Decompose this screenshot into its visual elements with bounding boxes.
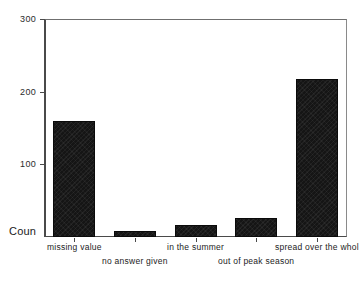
y-axis-tick-label: 100 xyxy=(6,159,36,169)
bar xyxy=(53,121,95,237)
x-axis-tick-mark xyxy=(256,238,257,242)
x-axis-tick-label: no answer given xyxy=(102,256,168,266)
bars-layer xyxy=(44,19,347,237)
bar xyxy=(114,231,156,237)
bar xyxy=(296,79,338,237)
y-axis-tick-label: 300 xyxy=(6,14,36,24)
y-axis-tick-label: 200 xyxy=(6,87,36,97)
bar xyxy=(235,218,277,237)
x-axis-tick-mark xyxy=(135,238,136,242)
bar xyxy=(175,225,217,237)
y-axis-title: Coun xyxy=(9,225,36,237)
x-axis-tick-label: in the summer xyxy=(167,242,224,252)
x-axis-tick-label: missing value xyxy=(47,242,102,252)
x-axis-tick-label: out of peak season xyxy=(218,256,294,266)
x-axis-tick-label: spread over the whol xyxy=(275,242,359,252)
bar-chart: 300200100Coun missing valueno answer giv… xyxy=(0,0,359,282)
